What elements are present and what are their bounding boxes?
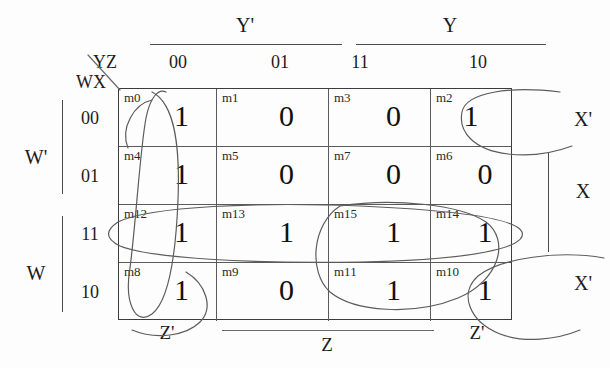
cell-value: 1: [119, 217, 230, 247]
kmap-cell-m9[interactable]: m9 0: [217, 263, 329, 321]
row-header-11: 11: [70, 224, 110, 245]
cell-value: 1: [119, 101, 230, 131]
cell-value: 0: [217, 275, 342, 305]
kmap-cell-m6[interactable]: m6 0: [431, 147, 511, 205]
top-var-label-y: Y: [355, 14, 545, 37]
corner-label-wx: WX: [76, 72, 106, 93]
kmap-cell-m11[interactable]: m11 1: [329, 263, 431, 321]
kmap-cell-m2[interactable]: m2 1: [431, 89, 511, 147]
bottom-bracket-rule-z: [222, 330, 434, 331]
kmap-cell-m12[interactable]: m12 1: [119, 205, 217, 263]
kmap-cell-m3[interactable]: m3 0: [329, 89, 431, 147]
cell-value: 1: [217, 217, 342, 247]
cell-value: 0: [217, 159, 342, 189]
left-bracket-rule-w-prime: [62, 100, 63, 194]
cell-value: 1: [431, 275, 525, 305]
col-header-00: 00: [148, 52, 208, 73]
corner-label-yz: YZ: [93, 52, 117, 73]
kmap-cell-m1[interactable]: m1 0: [217, 89, 329, 147]
cell-value: 0: [217, 101, 342, 131]
top-bracket-rule-y: [356, 44, 546, 45]
row-header-10: 10: [70, 282, 110, 303]
kmap-cell-m10[interactable]: m10 1: [431, 263, 511, 321]
left-var-label-w: W: [16, 262, 56, 285]
cell-value: 1: [119, 275, 230, 305]
kmap-cell-m7[interactable]: m7 0: [329, 147, 431, 205]
bottom-var-label-z-prime-left: Z': [140, 322, 194, 344]
row-header-01: 01: [70, 166, 110, 187]
col-header-11: 11: [330, 52, 390, 73]
top-var-label-y-prime: Y': [140, 14, 350, 37]
cell-value: 1: [431, 217, 525, 247]
kmap-cell-m5[interactable]: m5 0: [217, 147, 329, 205]
cell-value: 0: [329, 159, 444, 189]
kmap-cell-m8[interactable]: m8 1: [119, 263, 217, 321]
col-header-10: 10: [448, 52, 508, 73]
kmap-figure: Y' Y 00 01 11 10 YZ WX 00 01 11 10 W' W …: [0, 0, 610, 368]
right-bracket-rule-x: [548, 152, 549, 252]
right-var-label-x-prime-top: X': [565, 108, 601, 131]
cell-value: 1: [119, 159, 230, 189]
right-var-label-x-prime-bottom: X': [565, 272, 601, 295]
kmap-cell-m13[interactable]: m13 1: [217, 205, 329, 263]
col-header-01: 01: [250, 52, 310, 73]
kmap-cell-m14[interactable]: m14 1: [431, 205, 511, 263]
cell-value: 1: [329, 217, 444, 247]
cell-value: 1: [431, 101, 511, 131]
cell-value: 1: [329, 275, 444, 305]
bottom-var-label-z: Z: [300, 334, 354, 356]
kmap-cell-m0[interactable]: m0 1: [119, 89, 217, 147]
kmap-grid: m0 1 m1 0 m3 0 m2 1 m4 1 m5 0 m7 0 m6: [118, 88, 512, 320]
row-header-00: 00: [70, 108, 110, 129]
left-var-label-w-prime: W': [16, 146, 56, 169]
kmap-cell-m4[interactable]: m4 1: [119, 147, 217, 205]
bottom-var-label-z-prime-right: Z': [450, 322, 504, 344]
top-bracket-rule-y-prime: [150, 44, 342, 45]
cell-value: 0: [431, 159, 525, 189]
cell-value: 0: [329, 101, 444, 131]
left-bracket-rule-w: [62, 216, 63, 312]
right-var-label-x: X: [565, 180, 601, 203]
kmap-cell-m15[interactable]: m15 1: [329, 205, 431, 263]
